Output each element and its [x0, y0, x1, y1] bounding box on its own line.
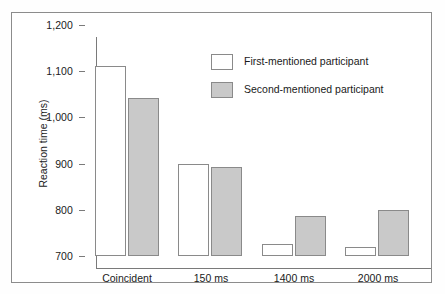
y-axis-tick-label: 700	[12, 251, 73, 262]
y-axis-tick-label: 1,100	[12, 66, 73, 77]
y-axis-tick	[79, 25, 85, 26]
y-axis-tick	[79, 117, 85, 118]
bar-first-mentioned	[262, 244, 293, 256]
bar-second-mentioned	[295, 216, 326, 256]
y-axis-tick-label: 800	[12, 205, 73, 216]
x-axis-line	[96, 268, 431, 269]
y-axis-tick-label: 1,000	[12, 112, 73, 123]
x-axis-category-label: 2000 ms	[336, 272, 420, 284]
bar-first-mentioned	[178, 164, 209, 256]
legend-item-label: First-mentioned participant	[244, 55, 368, 68]
bar-first-mentioned	[95, 66, 126, 256]
bar-second-mentioned	[128, 98, 159, 256]
legend-swatch-second-icon	[211, 82, 233, 98]
y-axis-tick	[79, 256, 85, 257]
y-axis-tick-label: 900	[12, 159, 73, 170]
legend-item-label: Second-mentioned participant	[244, 83, 384, 96]
bar-second-mentioned	[211, 167, 242, 256]
x-axis-category-label: Coincident	[85, 272, 169, 284]
y-axis-tick	[79, 71, 85, 72]
y-axis-tick	[79, 164, 85, 165]
legend-swatch-first-icon	[211, 54, 233, 70]
x-axis-category-label: 1400 ms	[252, 272, 336, 284]
figure-frame: Reaction time (ms) 7008009001,0001,1001,…	[11, 12, 432, 283]
y-axis-tick	[79, 210, 85, 211]
y-axis-tick-labels: 7008009001,0001,1001,200	[12, 13, 80, 294]
chart-figure: Reaction time (ms) 7008009001,0001,1001,…	[0, 0, 445, 294]
bar-first-mentioned	[345, 247, 376, 256]
bar-second-mentioned	[378, 210, 409, 256]
x-axis-category-label: 150 ms	[169, 272, 253, 284]
y-axis-tick-label: 1,200	[12, 20, 73, 31]
